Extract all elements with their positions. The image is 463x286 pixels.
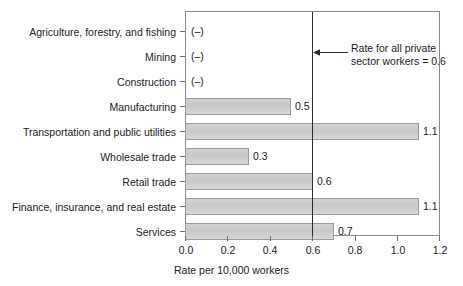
category-label-wholesale-trade: Wholesale trade xyxy=(0,152,176,163)
no-data-marker-agriculture: (–) xyxy=(191,23,204,40)
reference-line-annotation: Rate for all private sector workers = 0.… xyxy=(351,42,446,67)
bar-value-services: 0.7 xyxy=(338,223,353,240)
y-tick-2 xyxy=(180,81,185,82)
category-label-retail-trade: Retail trade xyxy=(0,177,176,188)
x-tick-1 xyxy=(227,236,228,241)
category-label-manufacturing: Manufacturing xyxy=(0,102,176,113)
category-label-finance: Finance, insurance, and real estate xyxy=(0,202,176,213)
bar-retail-trade xyxy=(185,173,313,190)
x-tick-6 xyxy=(439,236,440,241)
x-axis-title: Rate per 10,000 workers xyxy=(0,264,463,276)
x-tick-3 xyxy=(312,236,313,241)
x-tick-4 xyxy=(355,236,356,241)
bar-finance xyxy=(185,198,419,215)
x-tick-label-6: 1.2 xyxy=(433,245,448,256)
horizontal-bar-chart: Agriculture, forestry, and fishing Minin… xyxy=(0,0,463,286)
no-data-marker-construction: (–) xyxy=(191,73,204,90)
bar-value-transportation: 1.1 xyxy=(423,123,438,140)
bar-manufacturing xyxy=(185,98,291,115)
left-arrow-icon xyxy=(313,44,348,55)
category-label-mining: Mining xyxy=(0,52,176,63)
x-tick-label-2: 0.4 xyxy=(263,245,278,256)
x-tick-2 xyxy=(270,236,271,241)
bar-wholesale-trade xyxy=(185,148,249,165)
category-label-agriculture: Agriculture, forestry, and fishing xyxy=(0,27,176,38)
bar-transportation xyxy=(185,123,419,140)
x-tick-label-5: 1.0 xyxy=(391,245,406,256)
x-tick-label-1: 0.2 xyxy=(221,245,236,256)
annotation-line-1: Rate for all private xyxy=(351,42,446,55)
x-tick-label-0: 0.0 xyxy=(179,245,194,256)
no-data-marker-mining: (–) xyxy=(191,48,204,65)
y-tick-1 xyxy=(180,56,185,57)
category-label-construction: Construction xyxy=(0,77,176,88)
bar-value-retail-trade: 0.6 xyxy=(317,173,332,190)
x-tick-label-4: 0.8 xyxy=(348,245,363,256)
x-tick-label-3: 0.6 xyxy=(306,245,321,256)
bar-value-manufacturing: 0.5 xyxy=(295,98,310,115)
x-tick-0 xyxy=(185,236,186,241)
y-tick-0 xyxy=(180,31,185,32)
category-label-transportation: Transportation and public utilities xyxy=(0,127,176,138)
annotation-line-2: sector workers = 0.6 xyxy=(351,55,446,68)
category-label-services: Services xyxy=(0,227,176,238)
bar-value-finance: 1.1 xyxy=(423,198,438,215)
x-tick-5 xyxy=(397,236,398,241)
bar-value-wholesale-trade: 0.3 xyxy=(253,148,268,165)
